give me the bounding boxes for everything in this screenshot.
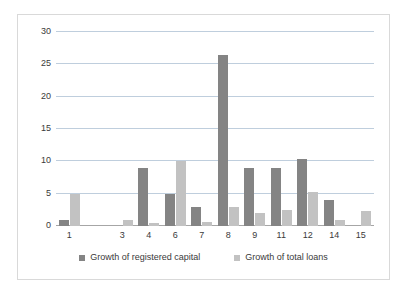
- x-axis-tick-label: 4: [146, 231, 151, 240]
- bar-0: [218, 55, 228, 226]
- chart-frame: 051015202530 134678911121415 Growth of r…: [17, 14, 390, 280]
- bar-group: [83, 32, 110, 226]
- legend-entry[interactable]: Growth of registered capital: [79, 253, 200, 262]
- bar-1: [229, 207, 239, 226]
- legend-swatch-icon: [79, 255, 85, 261]
- y-axis-tick-label: 5: [46, 188, 51, 197]
- y-axis-tick-label: 30: [41, 27, 51, 36]
- bar-group: 14: [321, 32, 348, 226]
- bar-1: [202, 222, 212, 226]
- x-axis-tick-label: 9: [252, 231, 257, 240]
- y-axis-tick-label: 15: [41, 124, 51, 133]
- y-axis-tick-label: 0: [46, 221, 51, 230]
- bar-1: [149, 223, 159, 226]
- bar-group: 15: [348, 32, 375, 226]
- x-axis-tick-label: 6: [173, 231, 178, 240]
- bar-group: 11: [268, 32, 295, 226]
- legend-swatch-icon: [234, 255, 240, 261]
- x-axis-tick-label: 14: [329, 231, 339, 240]
- x-axis-tick-label: 11: [277, 231, 286, 240]
- y-axis-tick-label: 20: [41, 91, 51, 100]
- chart-legend: Growth of registered capitalGrowth of to…: [18, 253, 389, 262]
- bar-1: [308, 192, 318, 226]
- bar-0: [138, 168, 148, 226]
- bar-1: [70, 194, 80, 226]
- bar-0: [244, 168, 254, 226]
- bar-group: 8: [215, 32, 242, 226]
- bar-group: 3: [109, 32, 136, 226]
- bar-group: 1: [56, 32, 83, 226]
- bar-group: 7: [189, 32, 216, 226]
- legend-entry[interactable]: Growth of total loans: [234, 253, 328, 262]
- bar-group: 6: [162, 32, 189, 226]
- bar-0: [324, 200, 334, 226]
- legend-label: Growth of registered capital: [90, 253, 200, 262]
- legend-label: Growth of total loans: [245, 253, 328, 262]
- bar-1: [255, 213, 265, 226]
- bar-0: [59, 220, 69, 226]
- bar-1: [123, 220, 133, 226]
- y-axis-tick-label: 25: [41, 59, 51, 68]
- bar-1: [361, 211, 371, 226]
- x-axis-tick-label: 8: [226, 231, 231, 240]
- bar-0: [271, 168, 281, 226]
- bar-1: [335, 220, 345, 226]
- bar-1: [282, 210, 292, 226]
- x-axis-tick-label: 7: [199, 231, 204, 240]
- bar-group: 9: [242, 32, 269, 226]
- x-axis-tick-label: 12: [303, 231, 313, 240]
- bars-layer: 134678911121415: [56, 32, 374, 226]
- x-axis-tick-label: 15: [356, 231, 366, 240]
- bar-0: [297, 159, 307, 226]
- bar-0: [165, 194, 175, 226]
- y-axis-tick-label: 10: [41, 156, 51, 165]
- bar-0: [191, 207, 201, 226]
- x-axis-tick-label: 3: [120, 231, 125, 240]
- plot-area: 051015202530 134678911121415: [56, 32, 374, 226]
- bar-group: 4: [136, 32, 163, 226]
- bar-group: 12: [295, 32, 322, 226]
- bar-1: [176, 161, 186, 226]
- x-axis-tick-label: 1: [67, 231, 72, 240]
